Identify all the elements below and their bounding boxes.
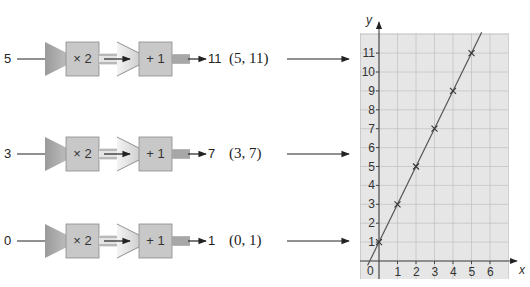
multiply-label: × 2 (66, 147, 99, 160)
output-value: 1 (208, 234, 215, 247)
output-tube (172, 149, 190, 159)
output-value: 11 (208, 52, 222, 65)
y-tick-label: 10 (362, 66, 375, 78)
x-axis-label: x (519, 264, 525, 276)
input-value: 5 (4, 52, 11, 65)
function-machine-diagram: 5× 2+ 111(5, 11)3× 2+ 17(3, 7)0× 2+ 11(0… (0, 0, 530, 287)
funnel-icon (45, 137, 67, 171)
coordinate-pair: (5, 11) (229, 51, 268, 66)
x-tick-label: 4 (450, 266, 457, 278)
y-tick-label: 4 (368, 179, 375, 191)
add-label: + 1 (139, 234, 172, 247)
y-tick-label: 11 (363, 47, 375, 59)
x-tick-label: 5 (469, 266, 476, 278)
multiply-label: × 2 (66, 234, 99, 247)
funnel-icon (45, 224, 67, 258)
y-tick-label: 6 (368, 142, 375, 154)
funnel-icon (45, 42, 67, 76)
y-tick-label: 2 (368, 217, 375, 229)
add-label: + 1 (139, 147, 172, 160)
y-tick-label: 3 (368, 198, 375, 210)
origin-label: 0 (367, 265, 374, 277)
y-tick-label: 7 (368, 123, 375, 135)
multiply-label: × 2 (66, 52, 99, 65)
y-tick-label: 8 (368, 104, 375, 116)
y-tick-label: 9 (368, 85, 375, 97)
output-tube (172, 54, 190, 64)
coordinate-pair: (0, 1) (229, 233, 262, 248)
x-tick-label: 2 (413, 266, 420, 278)
output-value: 7 (208, 147, 215, 160)
coordinate-graph (360, 22, 517, 279)
y-tick-label: 5 (368, 161, 375, 173)
output-tube (172, 236, 190, 246)
input-value: 0 (4, 234, 11, 247)
x-tick-label: 3 (432, 266, 439, 278)
x-tick-label: 6 (487, 266, 494, 278)
coordinate-pair: (3, 7) (229, 146, 262, 161)
x-tick-label: 1 (395, 266, 402, 278)
y-tick-label: 1 (368, 236, 375, 248)
add-label: + 1 (139, 52, 172, 65)
input-value: 3 (4, 147, 11, 160)
y-axis-label: y (366, 14, 372, 26)
